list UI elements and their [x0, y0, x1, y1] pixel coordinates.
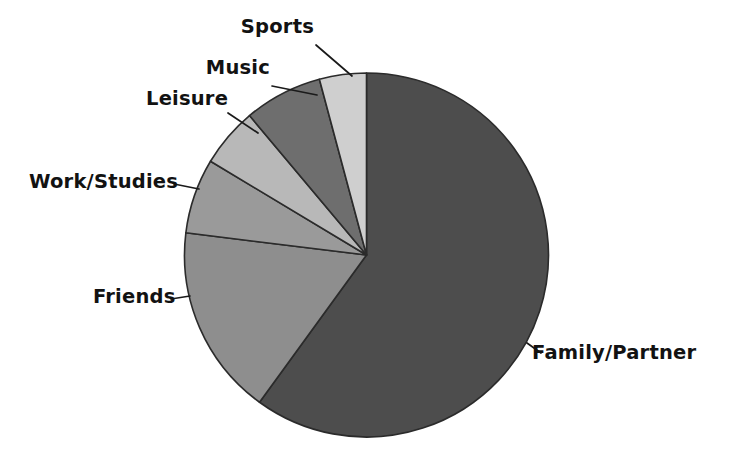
pie-label-music: Music [196, 58, 270, 78]
pie-label-family-partner: Family/Partner [532, 343, 696, 363]
pie-label-work-studies: Work/Studies [29, 172, 172, 192]
pie-label-leisure: Leisure [146, 89, 226, 109]
pie-chart: Family/Partner Friends Work/Studies Leis… [0, 0, 733, 467]
pie-label-sports: Sports [238, 17, 314, 37]
pie-chart-canvas [0, 0, 733, 467]
pie-label-friends: Friends [93, 287, 169, 307]
pie-slices-group [185, 73, 549, 437]
leader-line-sports [316, 45, 352, 76]
